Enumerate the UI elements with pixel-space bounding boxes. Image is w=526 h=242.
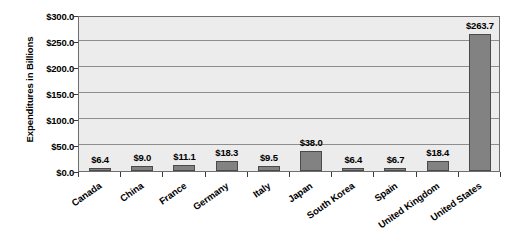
y-axis-tick-mark	[74, 94, 78, 95]
y-axis-tick-mark	[74, 146, 78, 147]
y-axis-tick-mark	[74, 16, 78, 17]
bar-chart: Expenditures in Billions $300.0$250.0$20…	[0, 0, 526, 242]
y-axis-tick-mark	[74, 172, 78, 173]
y-axis-tick-mark	[74, 42, 78, 43]
y-axis-tick-mark	[74, 68, 78, 69]
x-axis-category-labels: CanadaChinaFranceGermanyItalyJapanSouth …	[0, 0, 526, 242]
y-axis-tick-mark	[74, 120, 78, 121]
